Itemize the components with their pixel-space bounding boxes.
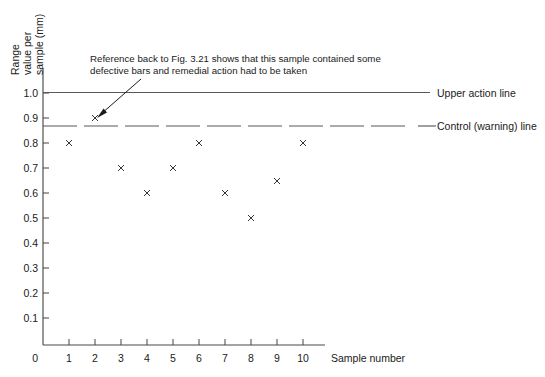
- y-tick-label-0.9: 0.9: [23, 112, 38, 124]
- y-axis-ticks: 1.0 0.9 0.8 0.7 0.6 0.5 0.4 0.3 0.2 0.1: [23, 87, 49, 324]
- legend-label-upper-action-line: Upper action line: [437, 87, 516, 99]
- annotation-defective-bars: Reference back to Fig. 3.21 shows that t…: [90, 53, 381, 76]
- y-axis-title-line-1: Range: [9, 44, 21, 75]
- x-tick-label-7: 7: [222, 352, 228, 364]
- data-point-sample-1: [66, 140, 72, 146]
- y-tick-label-0.6: 0.6: [23, 187, 38, 199]
- y-axis-title: Range value per sample (mm): [9, 14, 45, 75]
- data-point-sample-2: [92, 115, 98, 121]
- data-point-sample-10: [300, 140, 306, 146]
- data-point-sample-6: [196, 140, 202, 146]
- annotation-line-2: defective bars and remedial action had t…: [90, 65, 307, 76]
- x-axis-ticks: 1 2 3 4 5 6 7 8 9 10: [66, 339, 309, 364]
- x-tick-label-2: 2: [92, 352, 98, 364]
- y-tick-label-0.8: 0.8: [23, 137, 38, 149]
- data-point-sample-7: [222, 190, 228, 196]
- data-points: [66, 115, 306, 221]
- data-point-sample-5: [170, 165, 176, 171]
- data-point-sample-4: [144, 190, 150, 196]
- y-tick-label-0.4: 0.4: [23, 237, 38, 249]
- legend-label-control-warning-line: Control (warning) line: [437, 120, 537, 132]
- data-point-sample-9: [274, 178, 280, 184]
- x-tick-label-6: 6: [196, 352, 202, 364]
- y-tick-label-0.1: 0.1: [23, 312, 38, 324]
- data-point-sample-8: [248, 215, 254, 221]
- y-tick-label-0.7: 0.7: [23, 162, 38, 174]
- y-tick-label-0.5: 0.5: [23, 212, 38, 224]
- y-tick-label-1.0: 1.0: [23, 87, 38, 99]
- y-axis-title-line-2: value per: [21, 31, 33, 75]
- y-tick-label-0.3: 0.3: [23, 262, 38, 274]
- y-tick-label-0.2: 0.2: [23, 287, 38, 299]
- chart-canvas: Range value per sample (mm) 1.0 0.9 0.8 …: [0, 0, 545, 377]
- x-tick-label-9: 9: [274, 352, 280, 364]
- annotation-line-1: Reference back to Fig. 3.21 shows that t…: [90, 53, 381, 64]
- annotation-arrow: [97, 79, 141, 118]
- x-tick-label-1: 1: [66, 352, 72, 364]
- x-tick-label-4: 4: [144, 352, 150, 364]
- y-axis-title-line-3: sample (mm): [33, 14, 45, 75]
- x-tick-label-8: 8: [248, 352, 254, 364]
- range-control-chart: Range value per sample (mm) 1.0 0.9 0.8 …: [0, 0, 545, 377]
- x-tick-label-5: 5: [170, 352, 176, 364]
- x-tick-label-10: 10: [297, 352, 309, 364]
- x-tick-label-3: 3: [118, 352, 124, 364]
- data-point-sample-3: [118, 165, 124, 171]
- x-axis-title: Sample number: [331, 352, 406, 364]
- origin-label-0: 0: [32, 352, 38, 364]
